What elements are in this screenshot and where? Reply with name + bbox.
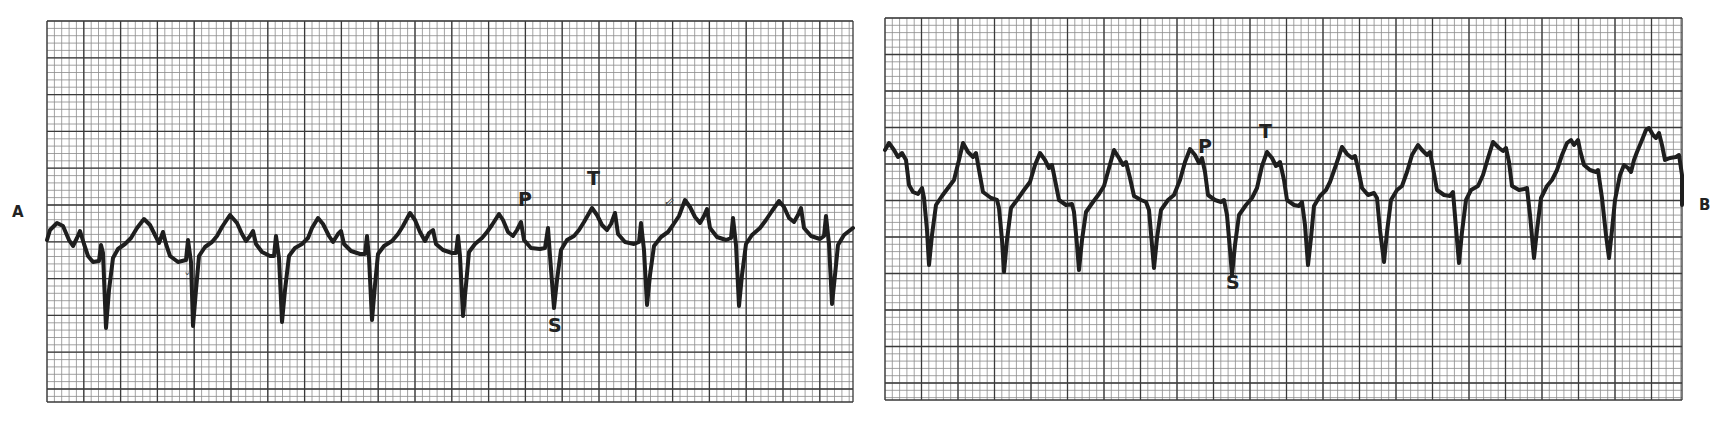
p-wave-label-a: P — [518, 190, 532, 209]
t-wave-label-b: T — [1259, 122, 1272, 141]
s-wave-label-a: S — [548, 316, 562, 335]
p-wave-label-b: P — [1198, 137, 1212, 156]
ecg-trace-b — [885, 128, 1682, 275]
ecg-strip-b — [0, 0, 1717, 423]
arrowhead-icon-marker: ˇ — [184, 272, 191, 285]
t-wave-label-a: T — [587, 169, 600, 188]
s-wave-label-b: S — [1226, 273, 1240, 292]
ecg-grid-b — [0, 0, 1717, 423]
arrow-icon-p-wave: ⇙ — [664, 195, 675, 208]
